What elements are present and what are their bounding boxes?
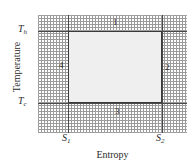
s1-subscript: 1 [67,137,71,145]
s2-subscript: 2 [161,137,165,145]
segment-label-1: 1 [113,18,118,27]
carnot-cycle-ts-diagram: 1 2 3 4 Th Tc S1 S2 Temperature Entropy [0,0,192,164]
x-tick-label-s2: S2 [156,133,165,143]
x-tick-label-s1: S1 [62,133,71,143]
segment-label-2: 2 [165,63,170,72]
carnot-cycle-rectangle [68,31,162,103]
y-axis-title: Temperature [12,24,22,110]
grid-line-horizontal [38,118,187,119]
grid-line-horizontal [38,15,187,16]
segment-label-3: 3 [115,107,120,116]
segment-label-4: 4 [59,61,64,70]
t-cold-subscript: c [24,100,27,108]
t-hot-subscript: h [24,28,28,36]
grid-line-horizontal [38,132,187,133]
x-axis-title: Entropy [38,150,187,160]
